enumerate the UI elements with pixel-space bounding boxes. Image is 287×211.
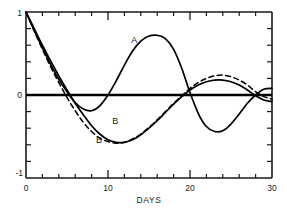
x-axis-tick-label: 10 (103, 183, 113, 193)
x-axis-tick-label: 0 (24, 183, 29, 193)
y-axis-zero-label: 0 (17, 90, 22, 100)
x-axis-tick-label: 20 (185, 183, 195, 193)
line-chart-svg: 1 0 -1 0102030 DAYS ABB (0, 0, 287, 211)
annotation-curve-a: A (131, 35, 137, 45)
annotation-curve-b-dashed: B (96, 135, 102, 145)
y-axis-bottom-label: -1 (15, 168, 23, 178)
chart-figure: 1 0 -1 0102030 DAYS ABB (0, 0, 287, 211)
x-axis-tick-label: 30 (267, 183, 277, 193)
annotation-curve-b-solid: B (112, 116, 118, 126)
x-axis-title: DAYS (137, 195, 162, 205)
y-axis-top-label: 1 (17, 8, 22, 18)
chart-background (0, 0, 287, 211)
